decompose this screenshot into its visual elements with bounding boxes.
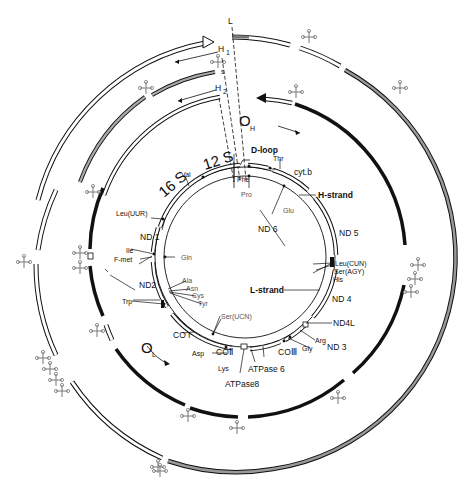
trna-tyr: Tyr	[198, 300, 208, 308]
label-h1: H	[218, 44, 224, 54]
outer-transcript-ring	[36, 37, 456, 472]
trna-asp: Asp	[192, 350, 204, 358]
trna-leu-cun: Leu(CUN)	[335, 260, 367, 268]
gene-atpase6: ATPase 6	[248, 364, 285, 374]
h2-transcript	[104, 90, 220, 195]
trna-thr: Thr	[273, 155, 284, 162]
label-d-loop: D-loop	[251, 145, 278, 155]
label-oh: O	[239, 112, 251, 129]
trna-gly: Gly	[302, 345, 313, 353]
leader-lines	[105, 154, 332, 373]
gene-co2: COⅡ	[216, 347, 233, 357]
label-ol: O	[141, 339, 153, 356]
gene-co3: COⅢ	[278, 347, 297, 357]
label-h2: H	[215, 83, 221, 93]
svg-text:s: s	[221, 68, 225, 75]
gene-atpase8: ATPase8	[225, 379, 260, 389]
gene-nd2: ND2	[139, 280, 156, 290]
trna-trp: Trp	[122, 298, 132, 306]
svg-text:L: L	[152, 351, 156, 358]
svg-text:2: 2	[223, 88, 227, 95]
trna-ile: Ile	[126, 247, 134, 254]
trna-fmet: F-met	[114, 256, 132, 263]
trna-lys: Lys	[218, 365, 229, 373]
gene-nd1: ND 1	[140, 232, 160, 242]
trna-leu-uur: Leu(UUR)	[116, 210, 148, 218]
mtdna-diagram: L H 1 s H 2 O H D-loop H-strand L-strand…	[0, 0, 474, 488]
trna-ser-ucn: Ser(UCN)	[221, 313, 252, 321]
label-l-strand: L-strand	[250, 285, 284, 295]
trna-pro: Pro	[241, 191, 252, 198]
gene-co1: CO I	[173, 330, 190, 340]
trna-markers	[16, 29, 425, 477]
svg-text:H: H	[250, 125, 255, 132]
svg-text:1: 1	[226, 49, 230, 56]
trna-arg: Arg	[315, 337, 326, 345]
labels: L H 1 s H 2 O H D-loop H-strand L-strand…	[114, 16, 367, 389]
label-h-strand: H-strand	[318, 190, 353, 200]
trna-val: Val	[181, 171, 191, 178]
trna-ser-agy: Ser(AGY)	[334, 268, 364, 276]
h1-transcript-arrow	[38, 36, 220, 200]
label-l: L	[228, 16, 233, 26]
gene-nd3: ND 3	[327, 342, 347, 352]
trna-phe: Phe	[237, 176, 250, 183]
trna-asn: Asn	[186, 285, 198, 292]
gene-nd6: ND 6	[258, 224, 278, 234]
trna-his: His	[333, 276, 344, 283]
gene-cytb: cyt.b	[294, 167, 312, 177]
gene-nd5: ND 5	[339, 228, 359, 238]
trna-glu: Glu	[283, 207, 294, 214]
trna-gln: Gln	[181, 254, 192, 261]
gene-nd4l: ND4L	[333, 318, 355, 328]
gene-nd4: ND 4	[332, 294, 352, 304]
trna-ala: Ala	[182, 277, 192, 284]
